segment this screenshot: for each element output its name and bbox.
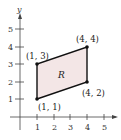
x-tick-label: 3 <box>68 123 73 132</box>
x-tick-label: 5 <box>102 123 107 132</box>
y-axis-label: y <box>16 5 22 14</box>
y-tick-label: 2 <box>8 78 13 87</box>
x-axis-arrow-icon <box>112 115 118 119</box>
vertex-point <box>85 80 89 84</box>
x-tick-label: 4 <box>85 123 90 132</box>
vertex-point <box>35 97 39 101</box>
x-tick-label: 1 <box>35 123 40 132</box>
vertex-label: (4, 4) <box>76 34 99 44</box>
y-tick-label: 5 <box>8 25 13 34</box>
parallelogram-region-plot: y 1 2 3 4 5 1 2 3 4 5 (1, 1) (4, 2) (4, … <box>0 0 121 140</box>
y-ticks <box>15 29 24 99</box>
y-tick-label: 1 <box>8 95 13 104</box>
vertex-label: (4, 2) <box>82 88 105 98</box>
vertex-point <box>85 45 89 49</box>
y-tick-label: 4 <box>8 43 13 52</box>
vertex-label: (1, 1) <box>38 102 61 112</box>
vertex-label: (1, 3) <box>26 51 49 61</box>
y-tick-label: 3 <box>8 60 13 69</box>
region-label: R <box>57 70 65 80</box>
vertex-point <box>35 62 39 66</box>
x-tick-label: 2 <box>52 123 57 132</box>
